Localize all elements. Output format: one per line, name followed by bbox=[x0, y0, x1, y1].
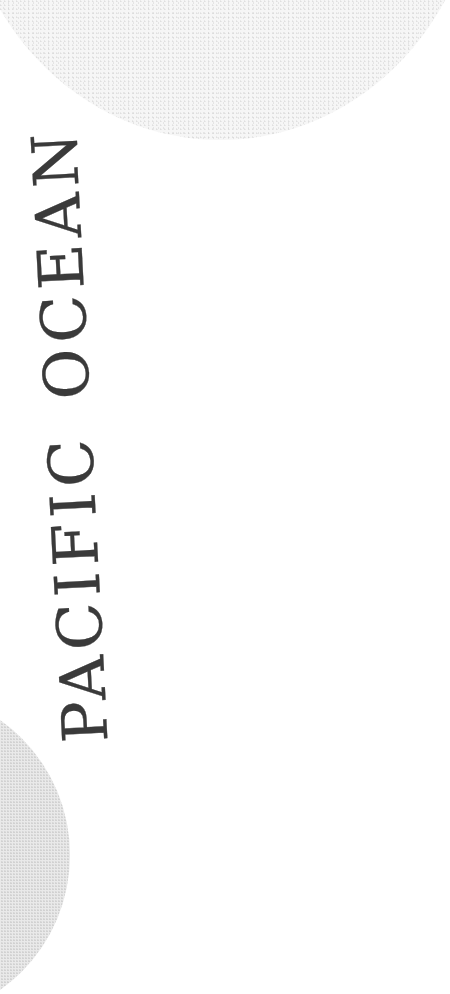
ocean-label-word-1: PACIFIC bbox=[33, 432, 122, 745]
land-stipple-top-right bbox=[0, 0, 450, 140]
ocean-label: PACIFICOCEAN bbox=[17, 125, 122, 744]
word-gap bbox=[90, 398, 92, 432]
ocean-label-word-2: OCEAN bbox=[17, 125, 104, 401]
